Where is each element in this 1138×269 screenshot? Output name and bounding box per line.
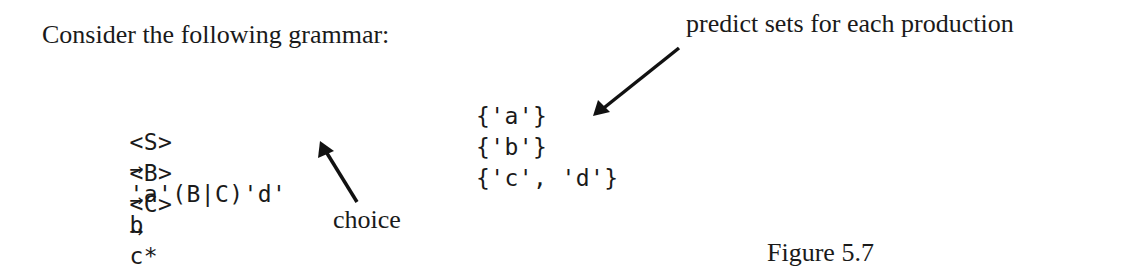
- predict-arrow-icon: [593, 48, 679, 116]
- annotation-arrows: [0, 0, 1138, 269]
- choice-arrow-icon: [318, 141, 357, 202]
